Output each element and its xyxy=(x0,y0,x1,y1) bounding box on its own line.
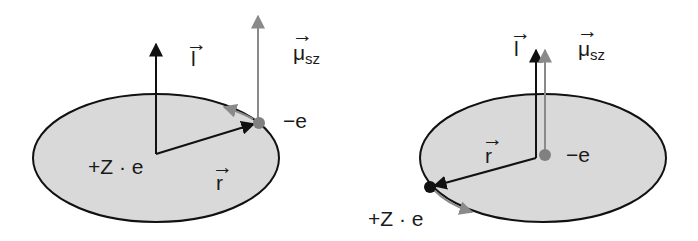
vector-arrow-glyph: → xyxy=(212,155,233,178)
orbit-diagram: l → μsz → −e +Z · e r → l → μsz → −e +Z … xyxy=(0,0,698,241)
electron-dot xyxy=(539,149,551,161)
nucleus-dot xyxy=(424,181,436,193)
electron-dot xyxy=(253,117,265,129)
nucleus-label: +Z · e xyxy=(368,207,423,230)
left-panel: l → μsz → −e +Z · e r → xyxy=(33,16,320,222)
nucleus-label: +Z · e xyxy=(88,155,143,178)
vector-arrow-glyph: → xyxy=(186,32,207,55)
vector-arrow-glyph: → xyxy=(577,19,598,42)
electron-label: −e xyxy=(566,143,590,166)
vector-arrow-glyph: → xyxy=(292,23,313,46)
electron-label: −e xyxy=(283,109,307,132)
right-panel: l → μsz → −e +Z · e r → xyxy=(368,19,666,230)
vector-arrow-glyph: → xyxy=(482,127,503,150)
vector-arrow-glyph: → xyxy=(510,21,531,44)
